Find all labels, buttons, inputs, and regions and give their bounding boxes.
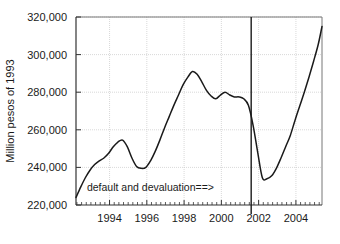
chart-annotations: default and devaluation==> <box>87 181 214 193</box>
y-tick-label: 300,000 <box>27 49 67 61</box>
x-tick-label: 1998 <box>172 212 196 224</box>
y-tick-label: 220,000 <box>27 199 67 211</box>
chart-figure: 199419961998200020022004 220,000240,0002… <box>0 0 340 244</box>
y-tick-label: 240,000 <box>27 161 67 173</box>
default-and-devaluation-label: default and devaluation==> <box>87 181 214 193</box>
x-tick-label: 2002 <box>246 212 270 224</box>
chart-canvas: 199419961998200020022004 220,000240,0002… <box>0 0 340 244</box>
x-tick-label: 2000 <box>209 212 233 224</box>
x-tick-label: 1994 <box>97 212 121 224</box>
y-axis-title: Million pesos of 1993 <box>4 59 16 162</box>
y-tick-label: 320,000 <box>27 11 67 23</box>
y-tick-label: 280,000 <box>27 86 67 98</box>
x-tick-label: 2004 <box>284 212 308 224</box>
x-tick-label: 1996 <box>135 212 159 224</box>
y-tick-label: 260,000 <box>27 124 67 136</box>
